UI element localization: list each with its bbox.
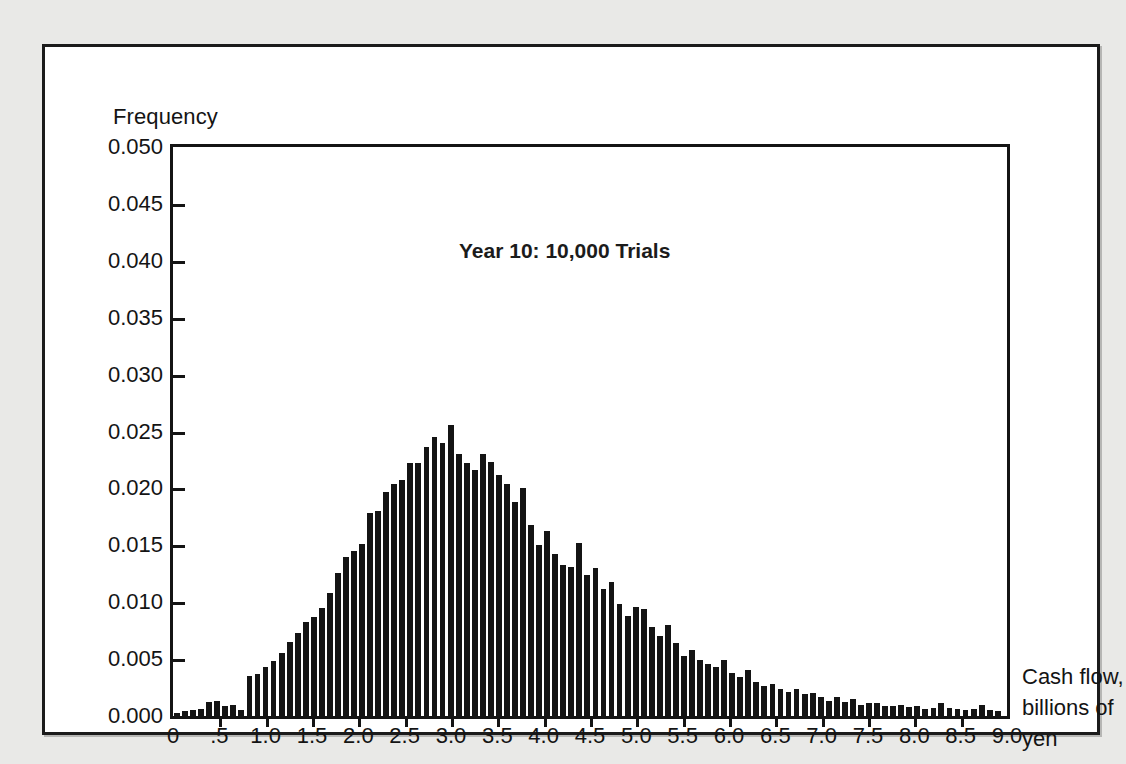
histogram-bar: [255, 674, 261, 716]
x-axis-tick-mark: [266, 717, 269, 727]
x-axis-title-line-3: yen: [1022, 723, 1124, 754]
histogram-bar: [440, 443, 446, 716]
histogram-bar: [528, 525, 534, 716]
x-axis-tick-mark: [961, 717, 964, 727]
x-axis-tick-mark: [544, 717, 547, 727]
x-axis-title: Cash flow, billions of yen: [1022, 661, 1124, 754]
histogram-bar: [206, 702, 212, 716]
figure-panel: Frequency 0.0000.0050.0100.0150.0200.025…: [42, 44, 1100, 735]
histogram-bar: [955, 709, 961, 716]
y-axis-tick-mark: [173, 659, 185, 662]
histogram-bar: [906, 707, 912, 716]
histogram-bar: [842, 702, 848, 716]
histogram-bar: [705, 664, 711, 716]
histogram-bar: [174, 713, 180, 716]
histogram-bar: [681, 656, 687, 716]
y-axis-tick-label: 0.015: [108, 532, 163, 558]
x-axis-tick-mark: [358, 717, 361, 727]
histogram-bar: [689, 650, 695, 716]
y-axis-tick-label: 0.050: [108, 134, 163, 160]
histogram-bar: [480, 454, 486, 716]
histogram-bar: [287, 642, 293, 716]
histogram-bar: [931, 708, 937, 716]
x-axis-tick-mark: [775, 717, 778, 727]
histogram-bar: [665, 625, 671, 716]
histogram-bar: [464, 463, 470, 716]
histogram-bar: [230, 705, 236, 716]
histogram-bar: [359, 544, 365, 716]
histogram-bar: [641, 609, 647, 716]
histogram-bar: [335, 573, 341, 716]
y-axis-tick-mark: [173, 488, 185, 491]
y-axis-tick-label: 0.005: [108, 646, 163, 672]
histogram-bar: [882, 706, 888, 716]
histogram-bar: [786, 692, 792, 716]
histogram-bar: [866, 703, 872, 716]
histogram-bar: [593, 568, 599, 716]
histogram-bar: [295, 633, 301, 716]
histogram-bar: [568, 567, 574, 716]
y-axis-tick-mark: [173, 204, 185, 207]
y-axis-tick-mark: [173, 375, 185, 378]
histogram-bar: [247, 676, 253, 716]
histogram-bar: [938, 703, 944, 716]
histogram-bar: [995, 711, 1001, 716]
x-axis-tick-mark: [822, 717, 825, 727]
histogram-bar: [761, 686, 767, 716]
y-axis-tick-mark: [173, 261, 185, 264]
y-axis-tick-label: 0.035: [108, 305, 163, 331]
histogram-bar: [979, 705, 985, 716]
histogram-bar: [407, 463, 413, 716]
histogram-bar: [737, 677, 743, 716]
histogram-bar: [472, 470, 478, 716]
histogram-bar: [432, 437, 438, 716]
histogram-bar: [810, 693, 816, 716]
histogram-bar: [729, 673, 735, 716]
histogram-bar: [327, 593, 333, 716]
histogram-bar: [198, 709, 204, 716]
histogram-bar: [858, 705, 864, 716]
histogram-bar: [898, 705, 904, 716]
plot-area: [170, 144, 1010, 719]
histogram-bar: [303, 622, 309, 716]
y-axis-tick-label: 0.040: [108, 248, 163, 274]
histogram-bar: [496, 475, 502, 716]
histogram-bar: [890, 706, 896, 716]
histogram-bar: [673, 643, 679, 716]
histogram-bar: [713, 667, 719, 716]
histogram-bar: [971, 709, 977, 716]
x-axis-tick-label: 9.0: [992, 723, 1023, 749]
histogram-bar: [633, 607, 639, 716]
y-axis-tick-label: 0.020: [108, 475, 163, 501]
x-axis-tick-mark: [729, 717, 732, 727]
y-axis-tick-label: 0.045: [108, 191, 163, 217]
histogram-bar: [552, 554, 558, 716]
histogram-bar: [625, 616, 631, 716]
histogram-bar: [424, 447, 430, 716]
histogram-bar: [753, 682, 759, 716]
histogram-bar: [351, 551, 357, 716]
y-axis-tick-label: 0.025: [108, 419, 163, 445]
y-axis-tick-mark: [173, 432, 185, 435]
histogram-bar: [536, 545, 542, 716]
histogram-bar: [190, 710, 196, 716]
histogram-bar: [947, 708, 953, 716]
x-axis-title-line-2: billions of: [1022, 692, 1124, 723]
histogram-bar: [319, 608, 325, 716]
histogram-bar: [343, 557, 349, 716]
x-axis-tick-mark: [451, 717, 454, 727]
histogram-bar: [657, 636, 663, 716]
histogram-bars: [173, 147, 1007, 716]
histogram-bar: [544, 531, 550, 716]
histogram-bar: [987, 710, 993, 716]
histogram-bar: [488, 462, 494, 716]
histogram-bar: [375, 511, 381, 716]
histogram-bar: [263, 667, 269, 716]
histogram-bar: [826, 701, 832, 716]
histogram-bar: [383, 492, 389, 716]
histogram-bar: [914, 706, 920, 716]
histogram-bar: [778, 689, 784, 716]
histogram-bar: [874, 703, 880, 716]
histogram-bar: [222, 706, 228, 716]
histogram-bar: [721, 660, 727, 716]
